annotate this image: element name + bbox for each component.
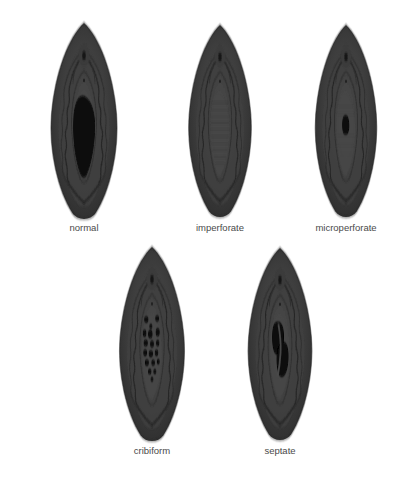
hymenal-variants-diagram: normal imperforate [0, 0, 415, 477]
figure-label-microperforate: microperforate [315, 222, 376, 233]
figure-label-cribiform: cribiform [134, 445, 171, 456]
figure-label-normal: normal [69, 222, 98, 233]
figure-label-septate: septate [264, 445, 295, 456]
figure-label-imperforate: imperforate [196, 222, 244, 233]
opening-microperforate [342, 115, 349, 134]
